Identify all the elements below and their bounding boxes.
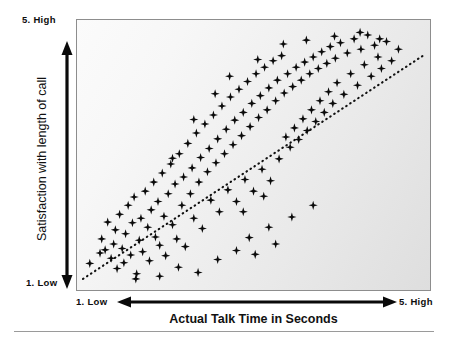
x-axis-title: Actual Talk Time in Seconds [76,312,431,326]
data-point [302,36,311,45]
data-point [138,247,147,256]
data-point [226,92,235,101]
data-point [158,169,167,178]
data-point [288,82,297,91]
data-point [194,178,203,187]
data-point [326,42,335,51]
data-point [266,176,275,185]
data-point [217,101,226,110]
data-point [292,63,301,72]
data-point [303,126,312,135]
data-point [256,91,265,100]
y-axis-high-label: 5. High [22,14,56,25]
data-point [300,58,309,67]
data-point [168,220,177,229]
x-axis-low-label: 1. Low [76,296,107,307]
data-point [175,149,184,158]
data-point [225,72,234,81]
data-point [245,233,254,242]
data-point [307,105,316,114]
data-point [264,223,273,232]
data-point [240,175,249,184]
data-point [251,250,260,259]
data-point [118,244,127,253]
data-point [181,242,190,251]
data-point [85,259,94,268]
data-point [111,225,120,234]
data-point [259,192,268,201]
data-point [112,264,121,273]
data-point [188,163,197,172]
data-point [280,88,289,97]
data-point [193,268,202,277]
data-point [128,218,137,227]
data-point [277,51,286,60]
data-point [166,159,175,168]
data-point [239,108,248,117]
trendline [83,55,424,279]
data-point [264,83,273,92]
data-point [279,39,288,48]
data-point [189,115,198,124]
data-point [309,52,318,61]
data-point [253,55,262,64]
data-point [317,47,326,56]
data-point [375,34,384,43]
data-point [249,187,258,196]
data-point [305,69,314,78]
data-point [211,158,220,167]
data-point [109,239,118,248]
data-point [147,205,156,214]
data-point [141,187,150,196]
data-point [131,274,140,283]
data-point [287,212,296,221]
data-point [159,212,168,221]
data-point [145,256,154,265]
data-point [132,269,141,278]
data-point [168,154,177,163]
bottom-divider [14,331,434,332]
data-point [339,90,348,99]
scatter-plot-figure: 5. High 1. Low Satisfaction with length … [0,0,450,341]
data-point [115,210,124,219]
data-point [356,28,365,37]
data-point [183,139,192,148]
data-point [251,69,260,78]
x-axis-high-label: 5. High [399,296,433,307]
data-point [309,201,318,210]
data-points [85,28,403,284]
data-point [198,224,207,233]
data-point [107,254,116,263]
data-point [330,32,339,41]
data-point [332,78,341,87]
data-point [298,114,307,123]
data-point [247,99,256,108]
data-point [192,128,201,137]
data-point [234,85,243,94]
data-point [257,165,266,174]
data-point [136,214,145,223]
data-point [155,241,164,250]
data-point [203,167,212,176]
data-point [370,41,379,50]
data-point [126,250,135,259]
data-point [97,234,106,243]
data-point [363,30,372,39]
data-point [367,72,376,81]
data-point [382,37,391,46]
data-point [211,89,220,98]
data-point [205,144,214,153]
data-point [336,38,345,47]
data-point [220,149,229,158]
data-point [283,69,292,78]
data-point [209,110,218,119]
data-point [222,125,231,134]
data-point [273,76,282,85]
data-point [200,119,209,128]
data-point [290,123,299,132]
data-point [356,45,365,54]
data-point [360,60,369,69]
data-point [161,251,170,260]
data-point [271,239,280,248]
data-point [275,154,284,163]
